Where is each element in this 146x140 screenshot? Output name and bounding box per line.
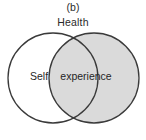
venn-diagram-figure: (b) Health Self experience xyxy=(0,0,146,140)
venn-svg-canvas: Self experience xyxy=(0,0,146,140)
intersection-label: experience xyxy=(60,70,112,82)
self-set-label: Self xyxy=(30,70,48,82)
